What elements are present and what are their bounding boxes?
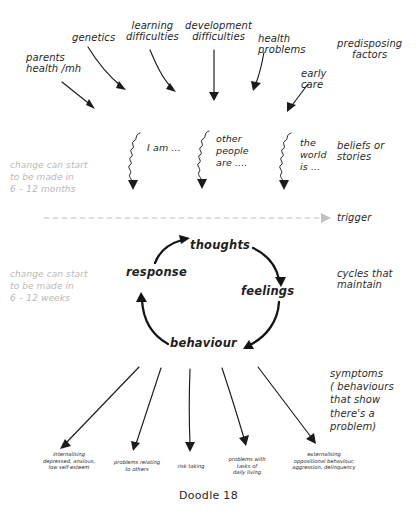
doodle-diagram: parents health /mh genetics learning dif… [0,0,417,515]
figure-caption: Doodle 18 [0,490,417,502]
symptoms-arrows [0,0,417,515]
